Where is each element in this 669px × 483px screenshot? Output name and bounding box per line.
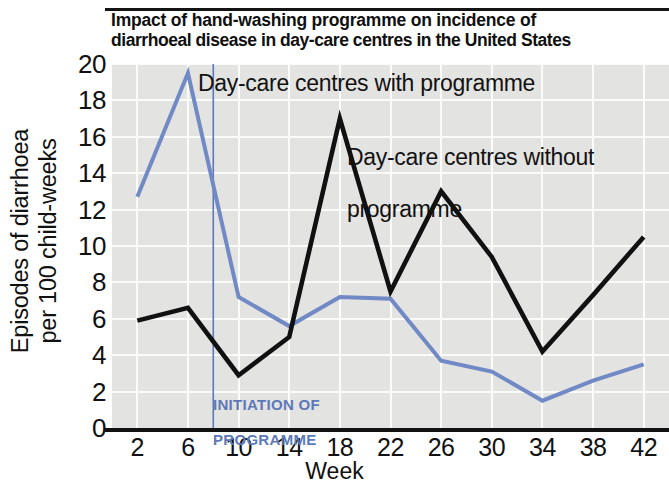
y-tick-8: 8: [66, 269, 106, 295]
y-tick-12: 12: [66, 197, 106, 223]
y-tick-18: 18: [66, 87, 106, 113]
y-tick-16: 16: [66, 124, 106, 150]
y-axis-title-wrap: Episodes of diarrhoea per 100 child-week…: [0, 0, 60, 483]
y-axis-tick-labels: 20181614121086420: [58, 0, 106, 483]
y-tick-6: 6: [66, 306, 106, 332]
y-tick-2: 2: [66, 379, 106, 405]
series-label-without-programme: Day-care centres without programme: [347, 118, 594, 222]
y-tick-4: 4: [66, 342, 106, 368]
series-label-without-line-2: programme: [347, 196, 462, 222]
initiation-of-programme-label: INITIATION OF PROGRAMME: [213, 378, 320, 448]
y-tick-20: 20: [66, 51, 106, 77]
chart-title-line-1: Impact of hand-washing programme on inci…: [111, 10, 536, 30]
chart-title: Impact of hand-washing programme on inci…: [111, 11, 669, 50]
chart-title-line-2: diarrhoeal disease in day-care centres i…: [111, 31, 669, 51]
initiation-label-line-1: INITIATION OF: [213, 396, 320, 413]
initiation-label-line-2: PROGRAMME: [213, 431, 317, 448]
y-tick-10: 10: [66, 233, 106, 259]
y-tick-14: 14: [66, 160, 106, 186]
x-axis-title: Week: [0, 458, 669, 483]
chart-figure: Impact of hand-washing programme on inci…: [0, 0, 669, 483]
series-label-without-line-1: Day-care centres without: [347, 144, 594, 170]
y-axis-title: Episodes of diarrhoea per 100 child-week…: [6, 66, 62, 416]
y-axis-title-line-1: Episodes of diarrhoea: [7, 129, 33, 353]
series-label-with-programme: Day-care centres with programme: [198, 70, 535, 96]
